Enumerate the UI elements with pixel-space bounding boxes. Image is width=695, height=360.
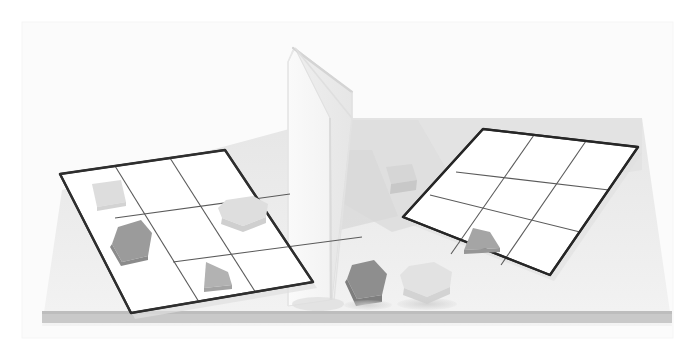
pentagon-ground-shadow <box>344 300 392 310</box>
left-board-cell-r0c0-square[interactable] <box>92 180 126 211</box>
scene-svg: Two-sided 3x3 grid board scene with divi… <box>0 0 695 360</box>
hexagon-ground-shadow <box>397 298 457 310</box>
cube-near-wall[interactable] <box>386 164 417 194</box>
table-front-apron <box>42 326 672 338</box>
scene-container: Two-sided 3x3 grid board scene with divi… <box>0 0 695 360</box>
divider-wall-base-shadow <box>292 297 344 311</box>
divider-wall-crease <box>330 118 331 300</box>
